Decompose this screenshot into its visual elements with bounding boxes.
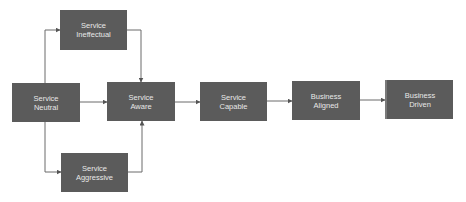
node-label-line2: Capable (220, 102, 248, 111)
node-business-driven: Business Driven (385, 80, 453, 119)
edge-ineffectual-to-aware (127, 30, 141, 82)
node-label-line2: Aggressive (76, 173, 113, 182)
node-label-line2: Ineffectual (76, 30, 110, 39)
node-service-aware: Service Aware (107, 82, 175, 121)
node-label-line1: Service (128, 93, 153, 102)
node-service-neutral: Service Neutral (12, 83, 80, 122)
edge-aggressive-to-aware (128, 121, 142, 172)
node-service-aggressive: Service Aggressive (61, 153, 128, 192)
node-label-line1: Business (405, 91, 435, 100)
node-label-line1: Service (81, 21, 106, 30)
node-label-line2: Driven (409, 100, 431, 109)
node-label-line1: Service (82, 164, 107, 173)
node-label-line1: Service (33, 94, 58, 103)
node-label-line1: Service (221, 93, 246, 102)
node-service-ineffectual: Service Ineffectual (60, 10, 127, 50)
node-label-line2: Aligned (313, 101, 338, 110)
edge-neutral-to-ineffectual (45, 30, 60, 83)
edge-neutral-to-aggressive (45, 122, 61, 172)
node-label-line1: Business (311, 92, 341, 101)
node-label-line2: Aware (130, 102, 151, 111)
node-label-line2: Neutral (34, 103, 58, 112)
node-service-capable: Service Capable (200, 82, 267, 121)
node-business-aligned: Business Aligned (292, 81, 360, 120)
